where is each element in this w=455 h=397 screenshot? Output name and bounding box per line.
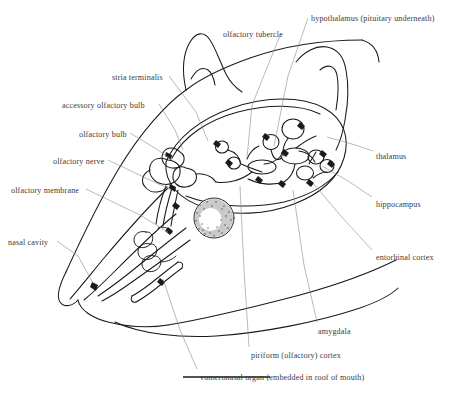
- label-accessory-olfactory-bulb: accessory olfactory bulb: [62, 101, 145, 111]
- nasal-cavity-shape: [70, 188, 190, 301]
- brain-nuclei: [216, 119, 335, 184]
- leader-stria-terminalis: [169, 76, 208, 141]
- label-amygdala: amygdala: [318, 327, 351, 337]
- label-hippocampus: hippocampus: [376, 200, 421, 210]
- leader-piriform-cortex: [240, 186, 249, 347]
- leader-vomeronasal-organ: [163, 279, 197, 369]
- label-stria-terminalis: stria terminalis: [112, 73, 163, 83]
- leader-thalamus: [327, 137, 373, 151]
- label-nasal-cavity: nasal cavity: [8, 238, 48, 248]
- brain-outline: [166, 99, 346, 213]
- label-olfactory-nerve: olfactory nerve: [53, 157, 104, 167]
- ear-right: [296, 47, 348, 150]
- label-olfactory-bulb: olfactory bulb: [79, 130, 127, 140]
- olfactory-pathway-diagram: olfactory tuberclehypothalamus (pituitar…: [0, 0, 455, 397]
- leader-olfactory-nerve: [108, 160, 171, 190]
- label-vomeronasal-organ: vomeronasal organ (embedded in roof of m…: [200, 373, 364, 383]
- label-entorhinal-cortex: entorhinal cortex: [376, 253, 434, 263]
- leader-nasal-cavity: [57, 241, 93, 283]
- olfactory-bulb-shape: [143, 148, 216, 192]
- leader-entorhinal-cortex: [313, 183, 372, 250]
- vomeronasal-organ-shape: [131, 262, 183, 302]
- eye: [194, 198, 234, 238]
- label-thalamus: thalamus: [376, 152, 406, 162]
- label-olfactory-tubercle: olfactory tubercle: [223, 30, 283, 40]
- label-olfactory-membrane: olfactory membrane: [11, 186, 79, 196]
- label-hypothalamus: hypothalamus (pituitary underneath): [311, 14, 434, 24]
- leader-amygdala: [293, 190, 317, 322]
- leader-olfactory-membrane: [86, 189, 168, 232]
- label-piriform-cortex: piriform (olfactory) cortex: [251, 351, 341, 361]
- head-outline: [58, 40, 398, 336]
- ear-left: [184, 34, 242, 92]
- diagram-artwork: [0, 0, 455, 397]
